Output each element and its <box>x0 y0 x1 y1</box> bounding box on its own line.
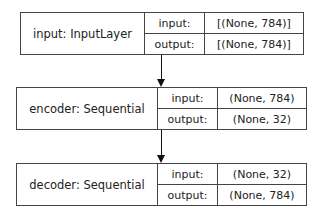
node-encoder: encoder: Sequential input: output: (None… <box>16 87 307 130</box>
node-name: encoder: Sequential <box>17 88 158 129</box>
output-shape: (None, 32) <box>218 108 306 129</box>
input-label: input: <box>158 88 217 108</box>
node-name: input: InputLayer <box>21 13 145 54</box>
output-label: output: <box>145 33 204 54</box>
node-decoder: decoder: Sequential input: output: (None… <box>16 163 307 206</box>
input-label: input: <box>158 164 217 184</box>
input-shape: [(None, 784)] <box>205 13 303 33</box>
output-label: output: <box>158 108 217 129</box>
edge-encoder-to-decoder <box>161 130 162 156</box>
input-label: input: <box>145 13 204 33</box>
node-input-layer: input: InputLayer input: output: [(None,… <box>20 12 304 55</box>
node-name: decoder: Sequential <box>17 164 158 205</box>
arrowhead-icon <box>157 79 165 87</box>
output-shape: [(None, 784)] <box>205 33 303 54</box>
output-label: output: <box>158 184 217 205</box>
input-shape: (None, 784) <box>218 88 306 108</box>
output-shape: (None, 784) <box>218 184 306 205</box>
arrowhead-icon <box>157 155 165 163</box>
input-shape: (None, 32) <box>218 164 306 184</box>
edge-input-to-encoder <box>161 55 162 80</box>
